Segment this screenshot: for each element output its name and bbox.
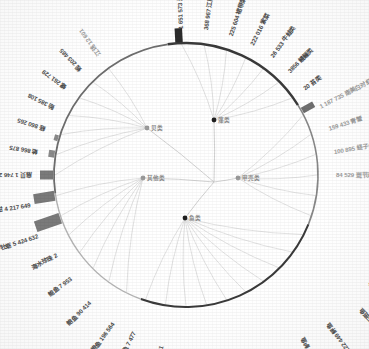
bar-kelp <box>175 28 183 42</box>
leaf-link <box>214 98 292 120</box>
leaf-link <box>109 178 143 281</box>
leaf-link <box>80 178 143 252</box>
algae-node[interactable] <box>212 118 217 123</box>
leaf-link <box>185 218 263 281</box>
leaf-link <box>238 178 311 215</box>
leaf-link <box>238 135 311 178</box>
bar-scallop <box>40 171 53 180</box>
ring-arc-shellfish <box>54 44 168 193</box>
tree-links-group <box>55 44 317 306</box>
leaf-link <box>80 98 147 128</box>
leaf-link <box>214 50 226 120</box>
leaf-link <box>238 116 303 178</box>
hub-link-algae-node <box>214 120 215 182</box>
leaf-link <box>166 218 185 304</box>
leaf-link <box>214 58 245 120</box>
leaf-link <box>204 45 214 120</box>
crustacean-node[interactable] <box>236 176 241 181</box>
hub-link-fish-node <box>185 182 214 218</box>
ring-arc-crustacean <box>298 105 318 224</box>
tree-nodes-group <box>141 118 241 221</box>
bar-ark <box>33 191 55 204</box>
leaf-link <box>214 69 263 120</box>
ring-arc-algae <box>168 43 298 105</box>
hub-link-crustacean-node <box>214 178 238 182</box>
radial-chart-canvas: 1 651 573 海带368 967 江蓠225 604 裙带菜222 016… <box>0 0 369 349</box>
fish-node[interactable] <box>183 216 188 221</box>
ring-arc-fish <box>141 224 309 307</box>
leaf-link <box>127 178 143 292</box>
bar-oyster <box>34 213 62 232</box>
leaf-link <box>238 178 315 195</box>
leaf-link <box>183 218 186 306</box>
leaf-link <box>185 218 245 292</box>
leaf-link <box>109 69 147 128</box>
leaf-link <box>146 218 185 300</box>
leaf-link <box>57 128 147 155</box>
radial-chart-svg <box>0 0 369 349</box>
leaf-link <box>185 218 226 300</box>
leaf-link <box>61 128 147 135</box>
value-bars-group <box>33 28 315 232</box>
hub-link-shellfish-node <box>147 128 214 182</box>
bar-clam <box>48 150 55 158</box>
shellfish-node[interactable] <box>145 126 150 131</box>
leaf-link <box>55 128 147 175</box>
leaf-link <box>214 82 279 120</box>
leaf-link <box>93 82 147 128</box>
leaf-link <box>57 178 143 195</box>
leaf-link <box>238 155 315 178</box>
leaf-link <box>185 218 303 234</box>
leaf-link <box>69 178 143 234</box>
leaf-link <box>185 218 279 268</box>
leaf-link <box>181 44 214 120</box>
bar-whiteshrimp <box>301 101 316 113</box>
hub-link-other-node <box>143 178 214 182</box>
leaf-link <box>185 218 206 304</box>
other-node[interactable] <box>141 176 146 181</box>
leaf-link <box>185 218 292 252</box>
leaf-link <box>93 178 143 268</box>
